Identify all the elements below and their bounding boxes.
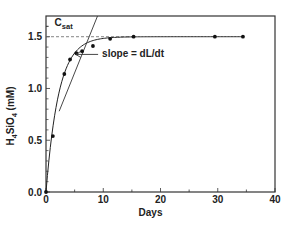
- y-tick-label: 0.0: [28, 187, 42, 198]
- x-tick-label: 30: [212, 194, 224, 205]
- x-tick-label: 0: [43, 194, 49, 205]
- y-tick-label: 0.5: [28, 135, 42, 146]
- data-point: [51, 134, 55, 138]
- x-axis-label: Days: [139, 207, 163, 218]
- plot-frame: [46, 16, 275, 192]
- data-point: [62, 72, 66, 76]
- slope-label: slope = dL/dt: [102, 48, 165, 59]
- x-tick-label: 10: [98, 194, 110, 205]
- y-axis-label: H4SiO4 (mM): [5, 87, 18, 146]
- data-point: [80, 49, 84, 53]
- data-point: [213, 35, 217, 39]
- chart: 0102030400.00.51.01.5 Csat slope = dL/dt…: [0, 0, 289, 228]
- x-tick-label: 20: [155, 194, 167, 205]
- data-point: [108, 37, 112, 41]
- data-point: [44, 190, 48, 194]
- data-point: [68, 58, 72, 62]
- data-point: [132, 35, 136, 39]
- csat-label: Csat: [55, 17, 74, 31]
- data-point: [91, 44, 95, 48]
- x-tick-label: 40: [269, 194, 281, 205]
- fitted-curve: [46, 37, 244, 192]
- data-point: [241, 35, 245, 39]
- y-tick-label: 1.5: [28, 31, 42, 42]
- y-tick-label: 1.0: [28, 83, 42, 94]
